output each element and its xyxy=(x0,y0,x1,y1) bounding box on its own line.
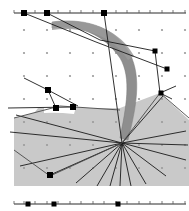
grid-dot xyxy=(69,98,71,100)
grid-dot xyxy=(115,75,117,77)
grid-dot xyxy=(69,52,71,54)
node-left-1 xyxy=(45,87,51,93)
grid-dot xyxy=(46,167,48,169)
axis-marker xyxy=(52,202,57,207)
top-ruler xyxy=(14,10,186,13)
grid-dot xyxy=(92,98,94,100)
grid-dot xyxy=(69,121,71,123)
axis-marker xyxy=(26,202,31,207)
grid-dot xyxy=(161,29,163,31)
grid-dot xyxy=(23,98,25,100)
grid-dot xyxy=(69,144,71,146)
grid-dot xyxy=(23,144,25,146)
grid-dot xyxy=(46,144,48,146)
grid-dot xyxy=(161,121,163,123)
grid-dot xyxy=(23,167,25,169)
grid-dot xyxy=(184,29,186,31)
axis-marker xyxy=(44,10,50,16)
grid-dot xyxy=(92,144,94,146)
grid-dot xyxy=(46,75,48,77)
grid-dot xyxy=(184,121,186,123)
grid-dot xyxy=(138,167,140,169)
grid-dot xyxy=(23,121,25,123)
axis-marker xyxy=(116,202,121,207)
node-right-1 xyxy=(153,49,158,54)
connector-line xyxy=(24,78,48,90)
axis-marker xyxy=(21,10,27,16)
bottom-ruler xyxy=(14,201,186,204)
grid-dot xyxy=(184,167,186,169)
grid-dot xyxy=(92,75,94,77)
node-left-2 xyxy=(53,105,59,111)
node-left-3 xyxy=(70,104,76,110)
node-right-2 xyxy=(165,67,170,72)
axis-marker xyxy=(101,10,107,16)
grid-dot xyxy=(184,98,186,100)
node-right-3 xyxy=(159,91,164,96)
grid-dot xyxy=(184,75,186,77)
grid-dot xyxy=(46,52,48,54)
grid-dot xyxy=(138,98,140,100)
grid-dot xyxy=(138,75,140,77)
grid-dot xyxy=(161,52,163,54)
grid-dot xyxy=(92,52,94,54)
grid-dot xyxy=(69,75,71,77)
grid-dot xyxy=(138,29,140,31)
grid-dot xyxy=(115,121,117,123)
grid-dot xyxy=(23,75,25,77)
connector-line xyxy=(48,90,78,106)
grid-dot xyxy=(138,144,140,146)
figure-canvas xyxy=(0,0,189,211)
grid-dot xyxy=(46,29,48,31)
grid-dot xyxy=(184,52,186,54)
grid-dot xyxy=(23,29,25,31)
grid-dot xyxy=(161,167,163,169)
node-bottom-1 xyxy=(47,172,53,178)
shaded-polygon xyxy=(14,93,189,186)
grid-dot xyxy=(115,29,117,31)
grid-dot xyxy=(23,52,25,54)
grid-dot xyxy=(92,121,94,123)
grid-dot xyxy=(138,52,140,54)
connector-line xyxy=(155,51,160,93)
grid-dot xyxy=(161,75,163,77)
grid-dot xyxy=(46,98,48,100)
